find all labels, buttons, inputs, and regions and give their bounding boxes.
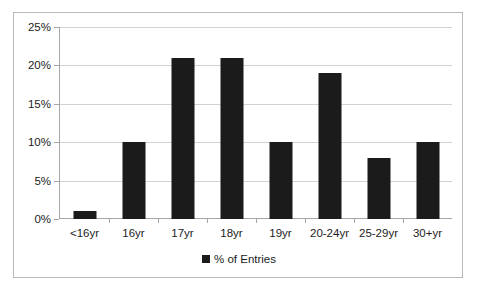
x-axis-category-label: 30+yr xyxy=(403,227,452,239)
bars-group xyxy=(60,27,452,219)
y-axis-tick-label: 20% xyxy=(28,59,51,71)
legend-label: % of Entries xyxy=(214,253,276,265)
y-axis-tick xyxy=(54,142,59,143)
x-axis-category-label: 20-24yr xyxy=(305,227,354,239)
y-axis-tick xyxy=(54,219,59,220)
y-axis-tick-label: 0% xyxy=(34,213,51,225)
bar[interactable] xyxy=(318,73,341,219)
y-axis-tick-label: 10% xyxy=(28,136,51,148)
chart-legend: % of Entries xyxy=(14,253,464,265)
x-axis-tick xyxy=(207,218,208,223)
x-axis-category-label: 16yr xyxy=(109,227,158,239)
y-axis-tick-label: 5% xyxy=(34,175,51,187)
x-axis-category-label: 25-29yr xyxy=(354,227,403,239)
bar-slot xyxy=(60,27,109,219)
x-axis-category-label: 17yr xyxy=(158,227,207,239)
bar[interactable] xyxy=(367,158,390,219)
bar[interactable] xyxy=(269,142,292,219)
bar-slot xyxy=(158,27,207,219)
chart-frame: 0%5%10%15%20%25% <16yr16yr17yr18yr19yr20… xyxy=(13,12,463,278)
bar[interactable] xyxy=(220,58,243,219)
bar-slot xyxy=(354,27,403,219)
x-axis-tick xyxy=(305,218,306,223)
bar-slot xyxy=(403,27,452,219)
x-axis-tick xyxy=(256,218,257,223)
x-axis-category-label: 18yr xyxy=(207,227,256,239)
y-axis-tick xyxy=(54,181,59,182)
x-axis-tick xyxy=(158,218,159,223)
bar[interactable] xyxy=(171,58,194,219)
y-axis-tick xyxy=(54,27,59,28)
bar-slot xyxy=(207,27,256,219)
bar-slot xyxy=(256,27,305,219)
x-axis-tick xyxy=(109,218,110,223)
x-axis-category-label: 19yr xyxy=(256,227,305,239)
bar-slot xyxy=(305,27,354,219)
x-axis-tick xyxy=(403,218,404,223)
y-axis-tick xyxy=(54,65,59,66)
plot-area: 0%5%10%15%20%25% <16yr16yr17yr18yr19yr20… xyxy=(59,27,452,232)
bar[interactable] xyxy=(416,142,439,219)
bar-slot xyxy=(109,27,158,219)
y-axis-tick-label: 15% xyxy=(28,98,51,110)
y-axis-tick-label: 25% xyxy=(28,21,51,33)
y-axis-tick xyxy=(54,104,59,105)
x-axis-labels-group: <16yr16yr17yr18yr19yr20-24yr25-29yr30+yr xyxy=(60,227,452,247)
bar[interactable] xyxy=(73,211,96,219)
x-axis-tick xyxy=(354,218,355,223)
bar[interactable] xyxy=(122,142,145,219)
x-axis-category-label: <16yr xyxy=(60,227,109,239)
legend-square-marker-icon xyxy=(202,255,210,263)
